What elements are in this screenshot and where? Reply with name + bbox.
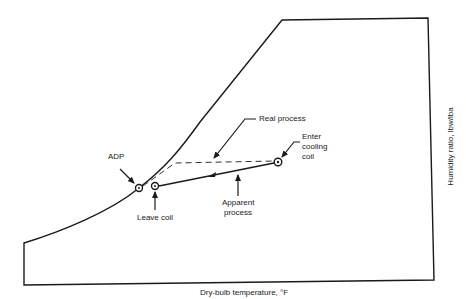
chart-boundary xyxy=(24,18,434,285)
x-axis-label: Dry-bulb temperature, °F xyxy=(200,288,288,298)
apparent-process-line xyxy=(159,163,274,186)
leave-coil-label: Leave coil xyxy=(137,213,173,223)
real-process-line xyxy=(143,161,275,186)
real-process-leader-arrow xyxy=(214,119,256,158)
real-process-label: Real process xyxy=(259,114,306,124)
y-axis-label: Humidity ratio, lbw/lba xyxy=(446,97,455,197)
enter-coil-point xyxy=(274,158,282,166)
apparent-process-label: Apparent process xyxy=(222,198,254,218)
adp-label: ADP xyxy=(108,152,124,162)
psychrometric-diagram xyxy=(0,0,466,299)
enter-coil-leader-arrow xyxy=(282,142,300,157)
enter-coil-label: Enter cooling coil xyxy=(302,132,327,162)
adp-point xyxy=(136,185,143,192)
leave-coil-point xyxy=(152,183,159,190)
adp-leader-arrow xyxy=(120,169,134,183)
